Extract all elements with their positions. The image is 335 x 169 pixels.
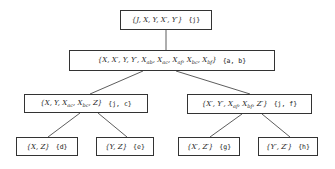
- node-n6-label: {g}: [219, 143, 231, 151]
- node-n7-label: {h}: [298, 143, 310, 151]
- edge-n3-n7: [262, 114, 290, 137]
- node-n1: {X, X′, Y, Y′, Xab, Xac, Xaf, Xbc, Xbf} …: [69, 50, 275, 71]
- node-n1-label: {a, b}: [223, 57, 246, 65]
- edge-n3-n6: [210, 114, 242, 137]
- node-n1-set: {X, X′, Y, Y′, Xab, Xac, Xaf, Xbc, Xbf}: [98, 56, 217, 65]
- node-n3-label: {j, f}: [274, 100, 297, 108]
- node-n5-set: {Y, Z}: [105, 143, 127, 151]
- node-n5-label: {e}: [133, 143, 145, 151]
- node-n3: {X′, Y′, Xaf, Xbf, Z′} {j, f}: [187, 94, 312, 114]
- edge-n2-n4: [48, 113, 80, 137]
- node-root-set: {J, X, Y, X′, Y′}: [132, 16, 183, 24]
- node-n4-set: {X, Z}: [27, 143, 50, 151]
- node-n7: {Y′, Z′} {h}: [258, 137, 318, 156]
- edge-n1-n2: [90, 71, 143, 94]
- node-n6-set: {X′, Z′}: [187, 143, 213, 151]
- node-n2: {X, Y, Xac, Xbc, Z} {j, c}: [24, 94, 148, 113]
- node-n5: {Y, Z} {e}: [96, 137, 154, 156]
- edge-n1-n3: [176, 71, 250, 94]
- node-root-label: {j}: [188, 16, 200, 24]
- node-root: {J, X, Y, X′, Y′} {j}: [120, 10, 212, 30]
- node-n4-label: {d}: [56, 143, 68, 151]
- node-n2-set: {X, Y, Xac, Xbc, Z}: [40, 99, 102, 108]
- node-n7-set: {Y′, Z′}: [266, 143, 292, 151]
- node-n6: {X′, Z′} {g}: [178, 137, 240, 156]
- node-n4: {X, Z} {d}: [16, 137, 78, 156]
- node-n2-label: {j, c}: [108, 100, 131, 108]
- edge-n2-n5: [98, 113, 127, 137]
- node-n3-set: {X′, Y′, Xaf, Xbf, Z′}: [202, 100, 268, 109]
